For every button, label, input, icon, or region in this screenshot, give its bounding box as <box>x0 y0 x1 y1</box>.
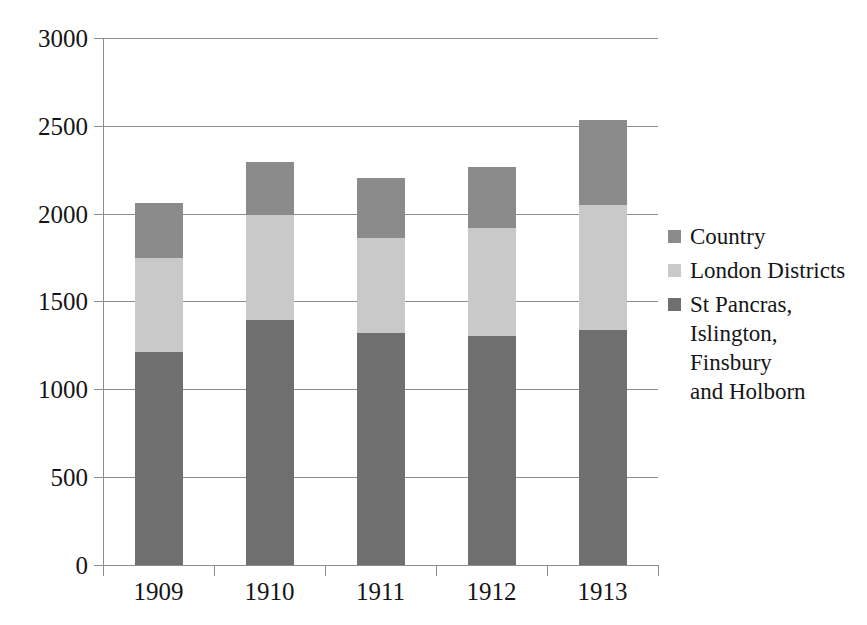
x-tick-mark-4 <box>547 566 548 576</box>
y-tick-mark-0 <box>94 565 103 566</box>
y-tick-label-1500: 1500 <box>38 289 88 314</box>
y-tick-label-2500: 2500 <box>38 114 88 139</box>
legend-item-country[interactable]: Country <box>668 222 864 251</box>
y-tick-mark-500 <box>94 477 103 478</box>
bar-stack-1911[interactable] <box>357 38 405 565</box>
legend-swatch-london-districts-icon <box>668 264 681 277</box>
x-tick-label-1909: 1909 <box>103 578 214 606</box>
x-tick-mark-3 <box>436 566 437 576</box>
bar-segment-1910-series-1[interactable] <box>246 215 294 320</box>
bar-segment-1910-series-2[interactable] <box>246 162 294 215</box>
legend-item-london-districts[interactable]: London Districts <box>668 256 864 285</box>
y-tick-label-500: 500 <box>51 465 89 490</box>
bar-segment-1909-series-2[interactable] <box>135 203 183 258</box>
y-axis-labels: 3000 2500 2000 1500 1000 500 0 <box>0 0 88 625</box>
legend-swatch-country-icon <box>668 230 681 243</box>
y-tick-mark-1000 <box>94 389 103 390</box>
bar-stack-1909[interactable] <box>135 38 183 565</box>
bar-segment-1912-series-2[interactable] <box>468 167 516 228</box>
y-tick-mark-2000 <box>94 214 103 215</box>
bar-segment-1911-series-0[interactable] <box>357 333 405 565</box>
y-tick-mark-1500 <box>94 301 103 302</box>
bar-stack-1912[interactable] <box>468 38 516 565</box>
legend-swatch-st-pancras-icon <box>668 298 681 311</box>
bar-segment-1913-series-1[interactable] <box>579 205 627 330</box>
y-tick-label-1000: 1000 <box>38 377 88 402</box>
y-tick-label-3000: 3000 <box>38 26 88 51</box>
legend-label-country: Country <box>690 222 765 251</box>
x-tick-mark-5 <box>658 566 659 576</box>
x-tick-label-1912: 1912 <box>436 578 547 606</box>
bar-segment-1911-series-2[interactable] <box>357 178 405 238</box>
x-axis-line <box>103 565 659 566</box>
x-tick-label-1913: 1913 <box>547 578 658 606</box>
chart-legend: Country London Districts St Pancras, Isl… <box>668 222 864 411</box>
bar-stack-1913[interactable] <box>579 38 627 565</box>
bar-segment-1910-series-0[interactable] <box>246 320 294 565</box>
legend-label-st-pancras: St Pancras, Islington, Finsbury and Holb… <box>690 290 806 406</box>
bar-segment-1912-series-0[interactable] <box>468 336 516 565</box>
bar-segment-1909-series-0[interactable] <box>135 352 183 565</box>
stacked-bar-chart: 3000 2500 2000 1500 1000 500 0 1909 1910… <box>0 0 867 625</box>
bar-segment-1911-series-1[interactable] <box>357 238 405 333</box>
bar-stack-1910[interactable] <box>246 38 294 565</box>
x-tick-mark-1 <box>214 566 215 576</box>
y-tick-label-2000: 2000 <box>38 202 88 227</box>
bar-segment-1913-series-2[interactable] <box>579 120 627 205</box>
bar-segment-1913-series-0[interactable] <box>579 330 627 565</box>
bar-segment-1909-series-1[interactable] <box>135 258 183 352</box>
x-tick-label-1911: 1911 <box>325 578 436 606</box>
x-tick-mark-2 <box>325 566 326 576</box>
x-tick-mark-0 <box>103 566 104 576</box>
legend-label-london-districts: London Districts <box>690 256 845 285</box>
y-tick-label-0: 0 <box>76 553 89 578</box>
legend-item-st-pancras[interactable]: St Pancras, Islington, Finsbury and Holb… <box>668 290 864 406</box>
y-tick-mark-3000 <box>94 38 103 39</box>
bar-segment-1912-series-1[interactable] <box>468 228 516 336</box>
x-tick-label-1910: 1910 <box>214 578 325 606</box>
y-tick-mark-2500 <box>94 126 103 127</box>
